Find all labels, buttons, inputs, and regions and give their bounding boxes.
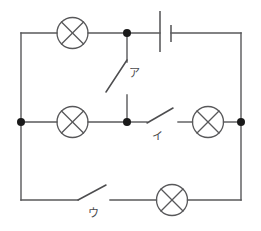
lamp-middle-left bbox=[57, 107, 88, 138]
circuit-svg-canvas: ア イ bbox=[0, 0, 261, 231]
switch-a-label: ア bbox=[129, 67, 140, 80]
switch-b-group[interactable]: イ bbox=[147, 108, 173, 143]
junction-mid-center bbox=[123, 118, 131, 126]
junction-mid-right bbox=[237, 118, 245, 126]
circuit-diagram: ア イ bbox=[0, 0, 261, 231]
switch-b-blade[interactable] bbox=[147, 108, 173, 123]
outer-frame-wires bbox=[21, 33, 241, 200]
bottom-branch: ウ bbox=[21, 185, 241, 221]
junction-mid-left bbox=[17, 118, 25, 126]
middle-branch: イ bbox=[21, 107, 241, 144]
lamp-top-left bbox=[57, 18, 88, 49]
switch-c-group[interactable]: ウ bbox=[78, 185, 106, 220]
switch-c-label: ウ bbox=[88, 207, 99, 220]
lamp-bottom bbox=[157, 185, 188, 216]
switch-c-blade[interactable] bbox=[78, 185, 106, 200]
top-branch bbox=[21, 11, 241, 52]
lamp-middle-right bbox=[193, 107, 224, 138]
switch-a-blade[interactable] bbox=[106, 60, 127, 92]
junction-top-mid bbox=[123, 29, 131, 37]
switch-b-label: イ bbox=[152, 130, 163, 143]
switch-a-group[interactable]: ア bbox=[106, 33, 140, 122]
battery-cell bbox=[160, 11, 171, 52]
